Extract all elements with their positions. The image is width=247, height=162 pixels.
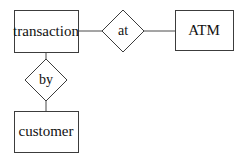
er-diagram-svg	[0, 0, 247, 162]
relationship-diamond-by[interactable]	[25, 59, 67, 101]
entity-box-customer[interactable]	[15, 112, 79, 153]
er-diagram-canvas: transaction ATM customer at by	[0, 0, 247, 162]
entity-box-atm[interactable]	[176, 11, 234, 51]
entity-box-transaction[interactable]	[15, 11, 79, 53]
relationship-diamond-at[interactable]	[102, 10, 144, 52]
